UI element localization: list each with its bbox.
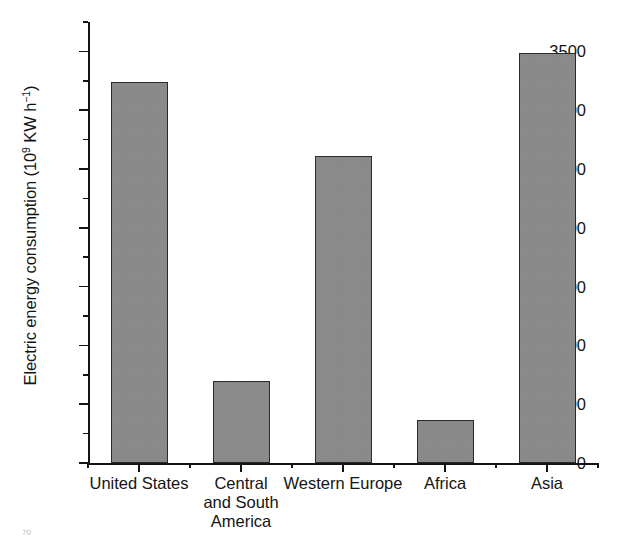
y-axis-tick-major [79,403,88,405]
scan-artifact-text: 70 [22,528,31,537]
x-axis-tick-minor [393,463,395,468]
y-axis-line [88,22,90,463]
x-axis-category-line: United States [89,474,188,493]
x-axis-tick-minor [597,463,599,468]
y-axis-title-suffix: ) [22,85,40,90]
bar [111,82,168,463]
x-axis-tick-major [342,463,344,472]
x-axis-tick-major [240,463,242,472]
x-axis-tick-major [546,463,548,472]
x-axis-category-line: Asia [531,474,563,493]
y-axis-tick-label: 0 [577,454,586,473]
y-axis-title-prefix: Electric energy consumption (10 [22,152,40,385]
x-axis-category-label: Centraland SouthAmerica [203,474,278,531]
x-axis-tick-minor [495,463,497,468]
bar [213,381,270,463]
x-axis-category-line: and South [203,493,278,512]
bar [519,53,576,463]
x-axis-category-line: Western Europe [284,474,403,493]
y-axis-tick-major [79,109,88,111]
y-axis-tick-minor [83,21,88,23]
y-axis-tick-minor [83,139,88,141]
y-axis-tick-major [79,345,88,347]
x-axis-category-label: Western Europe [284,474,403,493]
y-axis-title-text: Electric energy consumption (109 KW h−1) [22,85,41,385]
y-axis-tick-minor [83,374,88,376]
x-axis-category-line: Africa [424,474,466,493]
plot-area: 0500100015002000250030003500United State… [88,22,598,463]
bar [315,156,372,463]
x-axis-tick-minor [189,463,191,468]
y-axis-title-exponent-2: −1 [20,90,32,102]
x-axis-category-line: America [203,512,278,531]
x-axis-tick-minor [87,463,89,468]
y-axis-tick-major [79,227,88,229]
y-axis-tick-major [79,286,88,288]
x-axis-category-label: Asia [531,474,563,493]
x-axis-tick-minor [291,463,293,468]
y-axis-tick-major [79,51,88,53]
x-axis-tick-major [444,463,446,472]
bar [417,420,474,464]
scan-artifact: 70 [22,528,31,543]
y-axis-tick-minor [83,80,88,82]
x-axis-category-label: Africa [424,474,466,493]
y-axis-tick-minor [83,198,88,200]
y-axis-tick-minor [83,256,88,258]
y-axis-tick-minor [83,433,88,435]
y-axis-title: Electric energy consumption (109 KW h−1) [14,0,48,470]
bar-chart-figure: Electric energy consumption (109 KW h−1)… [0,0,619,551]
y-axis-tick-minor [83,315,88,317]
x-axis-category-line: Central [203,474,278,493]
y-axis-tick-major [79,168,88,170]
x-axis-category-label: United States [89,474,188,493]
x-axis-tick-major [138,463,140,472]
y-axis-title-middle: KW h [22,102,40,146]
